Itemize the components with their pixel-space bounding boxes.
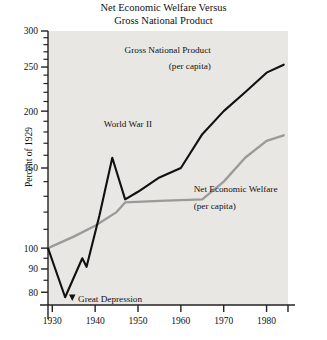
x-tick-label: 1970 <box>214 316 233 326</box>
plot-svg: 8090100150200250300 19301940195019601970… <box>0 0 327 340</box>
y-axis-ticks: 8090100150200250300 <box>24 26 48 297</box>
y-tick-label: 150 <box>24 163 39 173</box>
annotation-label: (per capita) <box>194 201 236 211</box>
annotation-label: Gross National Product <box>125 45 212 55</box>
annotation-label: Great Depression <box>78 294 142 304</box>
annotation-label: (per capita) <box>169 61 211 71</box>
annotation-label: Net Economic Welfare <box>194 184 278 194</box>
x-tick-label: 1940 <box>86 316 105 326</box>
annotation-label: World War II <box>104 119 152 129</box>
y-tick-label: 300 <box>24 26 39 36</box>
x-tick-label: 1980 <box>257 316 276 326</box>
x-tick-label: 1930 <box>43 316 62 326</box>
y-tick-label: 80 <box>29 288 39 298</box>
chart-container: Net Economic Welfare Versus Gross Nation… <box>0 0 327 340</box>
y-tick-label: 200 <box>24 107 39 117</box>
x-tick-label: 1950 <box>129 316 148 326</box>
y-tick-label: 100 <box>24 244 39 254</box>
y-tick-label: 250 <box>24 62 39 72</box>
x-axis-ticks: 193019401950196019701980 <box>43 305 288 326</box>
x-tick-label: 1960 <box>171 316 190 326</box>
y-tick-label: 90 <box>29 264 39 274</box>
